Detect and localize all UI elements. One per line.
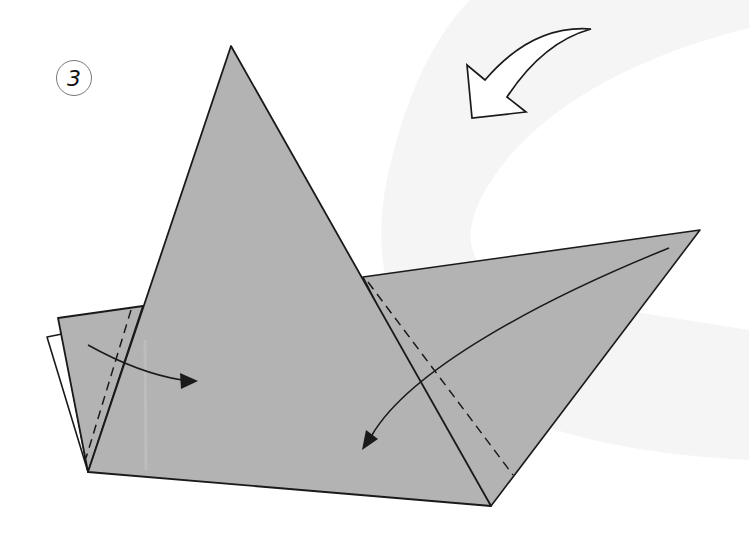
- step-number-badge: 3: [56, 60, 92, 96]
- crease-highlight: [145, 340, 146, 470]
- step-number: 3: [67, 66, 81, 91]
- diagram-canvas: [0, 0, 749, 541]
